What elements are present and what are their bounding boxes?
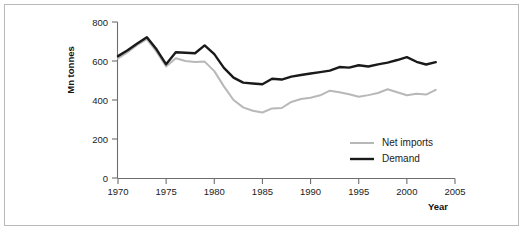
y-axis-title: Mn tonnes	[65, 46, 76, 94]
x-tick-label: 1995	[348, 186, 369, 197]
x-tick-label: 1980	[204, 186, 225, 197]
x-axis-title: Year	[428, 201, 448, 212]
chart-page: 0200400600800 19701975198019851990199520…	[0, 0, 527, 232]
x-tick-label: 1970	[107, 186, 128, 197]
series-line-demand	[118, 37, 436, 84]
line-chart: 0200400600800 19701975198019851990199520…	[0, 0, 527, 232]
x-ticks: 19701975198019851990199520002005	[107, 179, 465, 198]
y-axis: 0200400600800	[92, 17, 117, 184]
x-tick-label: 2000	[396, 186, 417, 197]
y-tick-label: 600	[92, 56, 108, 67]
x-tick-label: 1990	[300, 186, 321, 197]
legend-label: Demand	[382, 153, 420, 164]
x-tick-label: 1975	[156, 186, 177, 197]
y-tick-label: 200	[92, 134, 108, 145]
x-axis: 19701975198019851990199520002005	[107, 179, 465, 198]
x-tick-label: 2005	[444, 186, 465, 197]
series-line-net-imports	[118, 39, 436, 112]
y-tick-label: 0	[103, 173, 108, 184]
series-group	[118, 37, 436, 112]
y-tick-label: 400	[92, 95, 108, 106]
legend: Net importsDemand	[350, 137, 433, 164]
legend-label: Net imports	[382, 137, 433, 148]
x-tick-label: 1985	[252, 186, 273, 197]
y-tick-label: 800	[92, 17, 108, 28]
y-ticks: 0200400600800	[92, 17, 117, 184]
chart-svg: 0200400600800 19701975198019851990199520…	[0, 0, 527, 232]
